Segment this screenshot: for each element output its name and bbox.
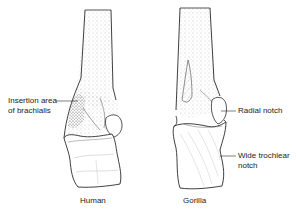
radial-notch-text: Radial notch	[238, 106, 282, 116]
human-humerus	[56, 10, 122, 187]
human-caption: Human	[80, 196, 106, 205]
radial-notch-label: Radial notch	[238, 106, 282, 116]
trochlear-label-line1: Wide trochlear	[238, 151, 290, 161]
anatomy-figure: Insertion area of brachialis Radial notc…	[0, 0, 296, 213]
insertion-label-line2: of brachialis	[8, 106, 57, 116]
insertion-label-line1: Insertion area	[8, 96, 57, 106]
gorilla-humerus	[173, 8, 236, 189]
trochlear-notch-label: Wide trochlear notch	[238, 151, 290, 170]
insertion-area-label: Insertion area of brachialis	[8, 96, 57, 115]
gorilla-caption: Gorilla	[183, 196, 206, 205]
trochlear-label-line2: notch	[238, 161, 290, 171]
